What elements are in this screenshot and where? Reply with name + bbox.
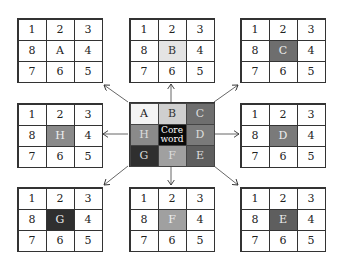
- grid-cell: 1: [130, 19, 159, 41]
- grid-cell: 8: [241, 209, 270, 231]
- grid-cell: 2: [46, 188, 75, 210]
- grid-cell: 3: [297, 19, 326, 41]
- core-word-cell: Core word: [158, 124, 187, 146]
- grid-cell: 4: [297, 209, 326, 231]
- grid-cell: 8: [241, 40, 270, 62]
- grid-cell: 5: [74, 61, 103, 83]
- grid-cell: 6: [158, 230, 187, 252]
- grid-center-cell: A: [46, 40, 75, 62]
- grid-cell: 6: [46, 230, 75, 252]
- grid-cell: 3: [297, 188, 326, 210]
- grid-center-cell: D: [269, 125, 298, 147]
- grid-cell: 4: [186, 40, 215, 62]
- grid-cell: 8: [241, 125, 270, 147]
- grid-cell: 3: [74, 19, 103, 41]
- grid-cell: 6: [269, 61, 298, 83]
- arrow-to-A: [104, 85, 128, 102]
- grid-cell: 7: [18, 61, 47, 83]
- grid-center-cell: C: [269, 40, 298, 62]
- grid-cell: 4: [297, 125, 326, 147]
- grid-C: 1238C4765: [240, 18, 326, 83]
- grid-cell: 7: [241, 230, 270, 252]
- grid-cell: 6: [269, 146, 298, 168]
- grid-center-cell: E: [269, 209, 298, 231]
- grid-cell: 5: [297, 230, 326, 252]
- grid-cell: 6: [46, 61, 75, 83]
- grid-cell: 1: [18, 188, 47, 210]
- core-neighbor-cell: H: [130, 124, 159, 146]
- core-neighbor-cell: D: [186, 124, 215, 146]
- grid-center-cell: H: [46, 125, 75, 147]
- grid-cell: 5: [297, 146, 326, 168]
- grid-cell: 1: [18, 104, 47, 126]
- grid-center-cell: F: [158, 209, 187, 231]
- grid-center-cell: B: [158, 40, 187, 62]
- grid-F: 1238F4765: [129, 187, 215, 252]
- grid-cell: 2: [46, 19, 75, 41]
- grid-cell: 5: [186, 61, 215, 83]
- grid-cell: 5: [186, 230, 215, 252]
- grid-cell: 2: [269, 188, 298, 210]
- grid-cell: 1: [241, 19, 270, 41]
- core-neighbor-cell: G: [130, 145, 159, 167]
- grid-cell: 7: [130, 230, 159, 252]
- grid-cell: 7: [241, 146, 270, 168]
- grid-cell: 5: [74, 146, 103, 168]
- grid-cell: 5: [297, 61, 326, 83]
- grid-H: 1238H4765: [17, 103, 103, 168]
- grid-cell: 8: [18, 125, 47, 147]
- grid-cell: 1: [241, 104, 270, 126]
- core-neighbor-cell: E: [186, 145, 215, 167]
- grid-cell: 3: [74, 104, 103, 126]
- grid-cell: 8: [18, 209, 47, 231]
- arrow-to-C: [214, 85, 238, 102]
- grid-cell: 4: [74, 40, 103, 62]
- grid-cell: 4: [74, 125, 103, 147]
- grid-cell: 1: [18, 19, 47, 41]
- grid-cell: 4: [74, 209, 103, 231]
- grid-cell: 8: [130, 40, 159, 62]
- grid-cell: 7: [241, 61, 270, 83]
- grid-cell: 7: [18, 230, 47, 252]
- grid-cell: 2: [269, 104, 298, 126]
- grid-cell: 3: [74, 188, 103, 210]
- core-neighbor-cell: A: [130, 103, 159, 125]
- grid-cell: 2: [269, 19, 298, 41]
- grid-cell: 6: [46, 146, 75, 168]
- grid-cell: 3: [297, 104, 326, 126]
- grid-cell: 6: [269, 230, 298, 252]
- grid-cell: 4: [186, 209, 215, 231]
- grid-cell: 6: [158, 61, 187, 83]
- grid-cell: 8: [18, 40, 47, 62]
- arrow-to-E: [214, 166, 238, 185]
- core-neighbor-cell: C: [186, 103, 215, 125]
- grid-center-cell: G: [46, 209, 75, 231]
- grid-A: 1238A4765: [17, 18, 103, 83]
- grid-E: 1238E4765: [240, 187, 326, 252]
- grid-cell: 3: [186, 188, 215, 210]
- grid-D: 1238D4765: [240, 103, 326, 168]
- core-neighbor-cell: F: [158, 145, 187, 167]
- core-neighbor-cell: B: [158, 103, 187, 125]
- grid-cell: 8: [130, 209, 159, 231]
- grid-cell: 4: [297, 40, 326, 62]
- grid-cell: 1: [130, 188, 159, 210]
- grid-cell: 7: [18, 146, 47, 168]
- grid-cell: 2: [158, 188, 187, 210]
- core-grid: ABCHCore wordDGFE: [129, 102, 215, 167]
- arrow-to-G: [104, 166, 128, 185]
- grid-cell: 3: [186, 19, 215, 41]
- grid-B: 1238B4765: [129, 18, 215, 83]
- grid-cell: 5: [74, 230, 103, 252]
- grid-cell: 2: [158, 19, 187, 41]
- grid-G: 1238G4765: [17, 187, 103, 252]
- grid-cell: 1: [241, 188, 270, 210]
- grid-cell: 2: [46, 104, 75, 126]
- grid-cell: 7: [130, 61, 159, 83]
